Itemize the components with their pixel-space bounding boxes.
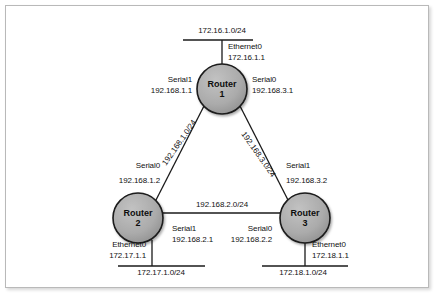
node-router3[interactable]: [280, 193, 330, 243]
network-label-center-link: 192.168.2.0/24: [196, 200, 248, 210]
interface-r3-serial1-addr: 192.168.3.2: [286, 176, 327, 186]
interface-r2-serial1-addr: 192.168.2.1: [172, 235, 213, 245]
interface-r2-serial1-name: Serial1: [172, 224, 196, 234]
network-label-bottom-right: 172.18.1.0/24: [279, 268, 327, 278]
interface-r2-ethernet0-name: Ethernet0: [112, 240, 146, 250]
interface-r3-ethernet0-name: Ethernet0: [312, 240, 346, 250]
interface-r3-serial1-name: Serial1: [286, 161, 310, 171]
interface-r3-serial0-name: Serial0: [248, 224, 272, 234]
interface-r1-ethernet0-name: Ethernet0: [228, 42, 262, 52]
interface-r2-serial0-addr: 192.168.1.2: [119, 176, 160, 186]
link-router1-router2: [156, 106, 204, 200]
interface-r2-serial0-name: Serial0: [136, 161, 160, 171]
interface-r1-serial1-name: Serial1: [168, 75, 192, 85]
network-diagram-canvas: [0, 0, 436, 299]
network-label-bottom-left: 172.17.1.0/24: [137, 268, 185, 278]
link-router1-router3: [240, 106, 288, 200]
interface-r3-ethernet0-addr: 172.18.1.1: [312, 251, 349, 261]
node-router2[interactable]: [113, 193, 163, 243]
interface-r1-ethernet0-addr: 172.16.1.1: [228, 53, 265, 63]
interface-r2-ethernet0-addr: 172.17.1.1: [109, 251, 146, 261]
interface-r3-serial0-addr: 192.168.2.2: [231, 235, 272, 245]
interface-r1-serial1-addr: 192.168.1.1: [151, 86, 192, 96]
network-label-top: 172.16.1.0/24: [198, 26, 246, 36]
interface-r1-serial0-addr: 192.168.3.1: [252, 86, 293, 96]
node-router1[interactable]: [197, 64, 247, 114]
interface-r1-serial0-name: Serial0: [252, 75, 276, 85]
